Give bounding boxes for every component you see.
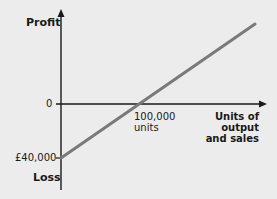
y-tick-loss-value: £40,000 <box>15 152 56 163</box>
x-axis-label-3: and sales <box>206 133 259 144</box>
y-axis-label-profit: Profit <box>26 17 60 28</box>
breakeven-unit: units <box>134 122 159 133</box>
y-tick-zero: 0 <box>46 98 52 109</box>
chart-canvas <box>0 0 277 199</box>
breakeven-value: 100,000 <box>134 111 175 122</box>
x-axis-label-1: Units of <box>215 111 259 122</box>
x-axis-arrow-icon <box>259 101 267 108</box>
y-axis-label-loss: Loss <box>33 172 61 183</box>
x-axis-label-2: output <box>221 122 259 133</box>
